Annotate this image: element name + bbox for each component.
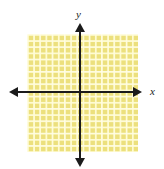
coordinate-plane-figure: y x: [0, 0, 164, 169]
x-axis-right-arrow-icon: [133, 87, 142, 97]
x-axis-line: [14, 91, 140, 93]
x-axis-left-arrow-icon: [9, 87, 18, 97]
x-axis-label: x: [150, 86, 155, 97]
y-axis-line: [79, 31, 81, 160]
y-axis-label: y: [76, 9, 81, 20]
y-axis-up-arrow-icon: [75, 23, 85, 32]
y-axis-down-arrow-icon: [75, 158, 85, 167]
